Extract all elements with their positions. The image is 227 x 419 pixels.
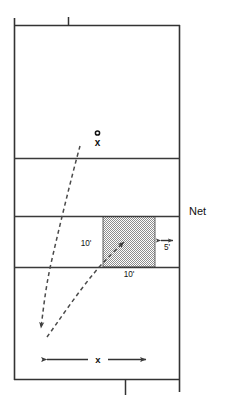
court-diagram-canvas: x Net 10' 10' 5' x (0, 0, 227, 419)
net-label: Net (189, 205, 206, 217)
target-zone-box (103, 217, 155, 268)
trajectory-incoming-dashed (41, 146, 80, 328)
court-diagram: x Net 10' 10' 5' x (0, 0, 227, 419)
x-dimension-label: x (95, 354, 101, 365)
ball-position-circle-icon (95, 131, 99, 135)
width-dimension-label: 10' (124, 270, 135, 279)
player-position-x-marker: x (95, 137, 101, 148)
depth-dimension-label: 10' (81, 239, 92, 248)
sideline-gap-label: 5' (164, 243, 171, 252)
